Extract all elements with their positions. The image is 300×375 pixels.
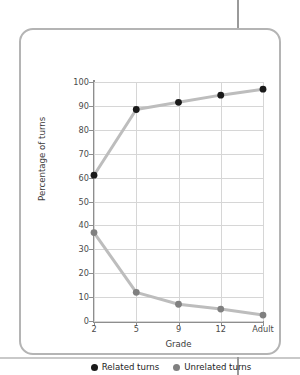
filled-circle-icon: [91, 364, 98, 371]
data-point-marker: [260, 312, 267, 319]
y-axis-tick-label: 10: [63, 292, 89, 302]
y-axis-tick-label: 0: [63, 316, 89, 326]
y-axis-tick-label: 40: [63, 220, 89, 230]
data-point-marker: [175, 99, 182, 106]
legend-label: Unrelated turns: [184, 362, 251, 372]
data-point-marker: [217, 306, 224, 313]
data-point-marker: [133, 289, 140, 296]
connector-line-top: [237, 0, 239, 30]
data-point-marker: [91, 229, 98, 236]
filled-circle-icon: [173, 364, 180, 371]
gridline-vertical: [263, 82, 264, 321]
y-axis-tick-labels: 0102030405060708090100: [61, 82, 89, 321]
y-axis-tick-label: 70: [63, 149, 89, 159]
data-point-marker: [260, 86, 267, 93]
figure-panel: SCIENCE 306: 179–182 Percentage of turns…: [0, 0, 300, 375]
x-axis-tick-label: 5: [134, 324, 139, 334]
y-axis-tick-label: 30: [63, 244, 89, 254]
legend-item: Unrelated turns: [173, 362, 251, 372]
horizontal-rule-bottom: [0, 357, 300, 359]
plot-area: [94, 82, 263, 321]
figure-card: Percentage of turns 01020304050607080901…: [19, 28, 281, 355]
y-axis-tick-label: 50: [63, 197, 89, 207]
legend-item: Related turns: [91, 362, 160, 372]
y-axis-tick-label: 100: [63, 77, 89, 87]
y-axis-tick-label: 60: [63, 173, 89, 183]
data-point-marker: [175, 301, 182, 308]
chart-legend: Related turnsUnrelated turns: [40, 362, 300, 372]
x-axis-tick-label: Adult: [252, 324, 273, 334]
data-point-marker: [217, 92, 224, 99]
y-axis-label: Percentage of turns: [37, 117, 47, 201]
x-axis-tick-labels: 25912Adult: [94, 324, 263, 338]
y-axis-tick-label: 90: [63, 101, 89, 111]
x-axis-tick-label: 12: [216, 324, 226, 334]
y-axis-tick-label: 20: [63, 268, 89, 278]
data-point-marker: [133, 106, 140, 113]
data-point-marker: [91, 172, 98, 179]
x-axis-label: Grade: [94, 339, 263, 349]
legend-label: Related turns: [102, 362, 160, 372]
series-plot: [94, 82, 263, 321]
x-axis-tick-label: 9: [176, 324, 181, 334]
x-axis-tick-label: 2: [91, 324, 96, 334]
y-axis-tick-label: 80: [63, 125, 89, 135]
